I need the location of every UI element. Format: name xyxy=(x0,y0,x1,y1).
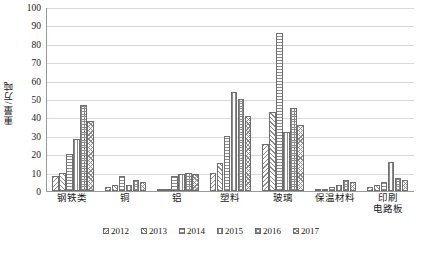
bar[interactable] xyxy=(283,132,290,191)
bar[interactable] xyxy=(73,139,80,191)
bar[interactable] xyxy=(210,173,217,191)
bar[interactable] xyxy=(224,136,231,191)
bar[interactable] xyxy=(171,176,178,191)
bar[interactable] xyxy=(388,162,395,191)
bar[interactable] xyxy=(133,180,140,191)
bar-group xyxy=(204,8,256,191)
bar-group xyxy=(309,8,361,191)
bar-chart: 重量/万吨 1009080706050403020100 钢铁类铜铝塑料玻璃保温… xyxy=(0,0,422,253)
y-axis-tick-80: 80 xyxy=(32,40,42,50)
y-axis-tick-40: 40 xyxy=(32,113,42,123)
y-axis-tick-100: 100 xyxy=(27,3,41,13)
bar[interactable] xyxy=(329,187,336,191)
y-axis-tick-30: 30 xyxy=(32,132,42,142)
y-axis-title-text: 重量/万吨 xyxy=(2,80,16,125)
bar-group xyxy=(99,8,151,191)
bar[interactable] xyxy=(269,112,276,191)
y-axis-tick-50: 50 xyxy=(32,95,42,105)
legend-item-2017[interactable]: 2017 xyxy=(293,226,319,236)
bar[interactable] xyxy=(59,173,66,191)
bar[interactable] xyxy=(395,178,402,191)
y-axis-tick-0: 0 xyxy=(36,187,41,197)
legend-label: 2012 xyxy=(111,226,129,236)
bar[interactable] xyxy=(276,33,283,191)
legend-item-2012[interactable]: 2012 xyxy=(103,226,129,236)
x-axis-label-1: 铜 xyxy=(99,193,152,215)
y-axis-tick-labels: 1009080706050403020100 xyxy=(18,8,44,192)
bar[interactable] xyxy=(238,99,245,191)
bar[interactable] xyxy=(245,116,252,191)
bar[interactable] xyxy=(343,180,350,191)
legend-swatch-icon xyxy=(255,228,261,234)
y-axis-tick-60: 60 xyxy=(32,77,42,87)
legend-swatch-icon xyxy=(179,228,185,234)
x-axis-label-0: 钢铁类 xyxy=(46,193,99,215)
legend-label: 2014 xyxy=(187,226,205,236)
bar[interactable] xyxy=(185,173,192,191)
bar[interactable] xyxy=(350,182,357,191)
bar[interactable] xyxy=(322,189,329,191)
x-axis-label-3: 塑料 xyxy=(204,193,257,215)
bar[interactable] xyxy=(105,187,112,191)
legend-label: 2013 xyxy=(149,226,167,236)
bar[interactable] xyxy=(52,176,59,191)
bar[interactable] xyxy=(297,125,304,191)
bar[interactable] xyxy=(231,92,238,191)
legend-label: 2017 xyxy=(301,226,319,236)
x-axis-label-4: 玻璃 xyxy=(256,193,309,215)
legend-item-2013[interactable]: 2013 xyxy=(141,226,167,236)
y-axis-tick-90: 90 xyxy=(32,21,42,31)
legend-item-2014[interactable]: 2014 xyxy=(179,226,205,236)
legend-swatch-icon xyxy=(293,228,299,234)
bar-group xyxy=(152,8,204,191)
bar[interactable] xyxy=(217,163,224,191)
bar[interactable] xyxy=(336,185,343,191)
bar-group xyxy=(362,8,414,191)
x-axis-label-5: 保温材料 xyxy=(309,193,362,215)
bar-groups xyxy=(47,8,414,191)
bar[interactable] xyxy=(157,189,164,191)
bar[interactable] xyxy=(381,182,388,191)
legend-swatch-icon xyxy=(103,228,109,234)
bar[interactable] xyxy=(178,174,185,191)
y-axis-tick-10: 10 xyxy=(32,169,42,179)
x-axis-label-2: 铝 xyxy=(151,193,204,215)
bar[interactable] xyxy=(367,187,374,191)
bar[interactable] xyxy=(80,105,87,191)
plot-area xyxy=(46,8,414,192)
x-axis-category-labels: 钢铁类铜铝塑料玻璃保温材料印刷 电路板 xyxy=(46,193,414,215)
legend-label: 2016 xyxy=(263,226,281,236)
bar[interactable] xyxy=(164,189,171,191)
legend-swatch-icon xyxy=(217,228,223,234)
legend-swatch-icon xyxy=(141,228,147,234)
bar[interactable] xyxy=(262,144,269,191)
legend-item-2016[interactable]: 2016 xyxy=(255,226,281,236)
bar[interactable] xyxy=(119,176,126,191)
bar[interactable] xyxy=(290,108,297,191)
bar-group xyxy=(47,8,99,191)
y-axis-tick-20: 20 xyxy=(32,150,42,160)
bar[interactable] xyxy=(315,189,322,191)
bar[interactable] xyxy=(112,185,119,191)
legend: 201220132014201520162017 xyxy=(0,226,422,236)
bar[interactable] xyxy=(402,180,409,191)
legend-item-2015[interactable]: 2015 xyxy=(217,226,243,236)
x-axis-label-6: 印刷 电路板 xyxy=(361,193,414,215)
bar[interactable] xyxy=(374,185,381,191)
bar[interactable] xyxy=(140,182,147,191)
bar-group xyxy=(257,8,309,191)
bar[interactable] xyxy=(87,121,94,191)
legend-label: 2015 xyxy=(225,226,243,236)
y-axis-title: 重量/万吨 xyxy=(0,0,18,205)
bar[interactable] xyxy=(66,154,73,191)
y-axis-tick-70: 70 xyxy=(32,58,42,68)
bar[interactable] xyxy=(192,174,199,191)
bar[interactable] xyxy=(126,185,133,191)
